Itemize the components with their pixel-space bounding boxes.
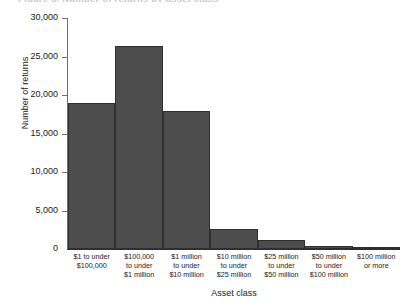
x-axis-title: Asset class	[68, 288, 400, 298]
y-axis-tick-label: 5,000	[11, 205, 58, 215]
x-axis-baseline	[67, 249, 400, 250]
figure-histogram-number-of-returns-by-asset-class: Figure 5. Number of returns by asset cla…	[0, 0, 417, 303]
bar	[210, 229, 257, 249]
y-axis-tick-label: 30,000	[11, 12, 58, 22]
bar	[68, 103, 115, 249]
x-axis-tick-label-line: $100 million	[301, 270, 356, 279]
bar-series	[68, 18, 400, 249]
y-axis-tick-label: 10,000	[11, 166, 58, 176]
y-axis-tick-label: 0	[11, 243, 58, 253]
bar	[258, 240, 305, 249]
bar	[115, 46, 162, 249]
cut-off-title-remnant: Figure 5. Number of returns by asset cla…	[18, 0, 378, 2]
y-axis-tick-label: 15,000	[11, 128, 58, 138]
x-axis-tick-label-line: or more	[349, 261, 404, 270]
y-axis-top-cap	[62, 18, 67, 19]
x-axis-tick-label: $100 millionor more	[349, 252, 404, 270]
y-axis-tick-label: 20,000	[11, 89, 58, 99]
plot-area	[68, 18, 400, 249]
y-axis-tick-label: 25,000	[11, 51, 58, 61]
bar	[163, 111, 210, 249]
x-axis-tick-label-line: $100 million	[349, 252, 404, 261]
